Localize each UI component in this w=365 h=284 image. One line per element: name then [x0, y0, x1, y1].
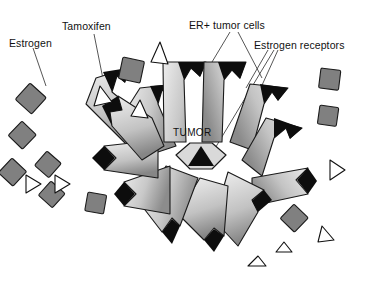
label-estrogen: Estrogen: [9, 37, 52, 49]
estrogen-molecule: [317, 105, 338, 126]
estrogen-molecule: [319, 68, 341, 90]
estrogen-molecule: [85, 192, 107, 214]
diagram-canvas: Estrogen Tamoxifen ER+ tumor cells Estro…: [0, 0, 365, 284]
estrogen-molecule: [118, 57, 144, 83]
tumor-diagram-svg: Estrogen Tamoxifen ER+ tumor cells Estro…: [0, 0, 365, 284]
label-tamoxifen: Tamoxifen: [62, 20, 111, 32]
label-er-tumor-cells: ER+ tumor cells: [189, 19, 265, 31]
label-estrogen-receptors: Estrogen receptors: [254, 39, 345, 51]
label-tumor-core: TUMOR: [173, 127, 212, 138]
